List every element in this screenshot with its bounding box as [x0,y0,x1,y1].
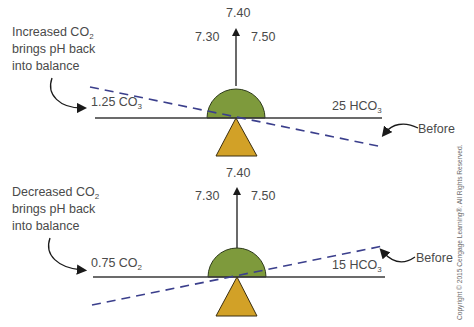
fulcrum-triangle [216,277,257,316]
right-pan-label: 15 HCO3 [332,258,382,274]
bottom-caption-line-3: into balance [12,219,79,233]
bottom-caption-line-1: Decreased CO2 [12,185,100,201]
ph-center-label: 7.40 [226,6,250,20]
fulcrum-triangle [216,118,257,156]
fulcrum-semicircle [207,89,265,118]
pointer-arrow-icon [233,187,241,195]
curved-arrow-icon [49,238,82,270]
acid-base-balance-diagram: Increased CO2 brings pH back into balanc… [0,0,474,327]
ph-low-label: 7.30 [195,189,219,203]
top-caption-line-3: into balance [12,59,79,73]
right-pan-label: 25 HCO3 [332,99,382,115]
before-arrow-icon [385,124,418,133]
left-pan-label: 0.75 CO2 [91,256,143,272]
bottom-caption-line-2: brings pH back [12,202,96,216]
fulcrum-semicircle [208,248,266,277]
before-label: Before [416,251,453,265]
ph-high-label: 7.50 [251,30,275,44]
before-label: Before [418,122,455,136]
before-arrow-icon [383,252,415,262]
top-caption-line-1: Increased CO2 [12,25,94,41]
top-caption-line-2: brings pH back [12,42,96,56]
left-pan-label: 1.25 CO3 [91,95,143,111]
curved-arrow-icon [51,78,82,108]
pointer-arrow-icon [232,28,240,36]
ph-low-label: 7.30 [195,30,219,44]
copyright-notice: Copyright © 2015 Cengage Learning®. All … [456,144,464,320]
ph-center-label: 7.40 [226,166,250,180]
ph-high-label: 7.50 [251,189,275,203]
top-panel: Increased CO2 brings pH back into balanc… [12,6,455,156]
bottom-panel: Decreased CO2 brings pH back into balanc… [12,166,453,316]
